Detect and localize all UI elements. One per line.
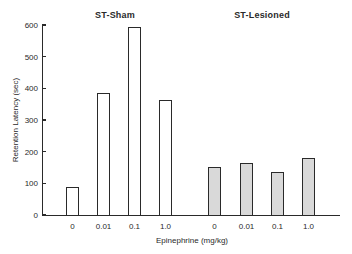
- y-tick-label: 300: [8, 116, 38, 125]
- y-tick-label: 600: [8, 21, 38, 30]
- bar-lesioned-0: [208, 167, 221, 215]
- y-tick: [42, 214, 46, 215]
- y-tick-label: 400: [8, 84, 38, 93]
- y-tick: [42, 119, 46, 120]
- y-tick: [42, 56, 46, 57]
- x-tick-label: 1.0: [303, 222, 314, 231]
- bar-sham-0.1: [128, 27, 141, 215]
- x-tick-label: 0.1: [129, 222, 140, 231]
- bar-lesioned-0.1: [271, 172, 284, 215]
- bar-chart: ST-Sham ST-Lesioned Retention Latency (s…: [0, 0, 352, 254]
- bar-sham-0: [66, 187, 79, 215]
- panel-title-lesioned: ST-Lesioned: [234, 10, 290, 20]
- x-tick-label: 0.1: [272, 222, 283, 231]
- y-tick: [42, 151, 46, 152]
- bar-sham-0.01: [97, 93, 110, 215]
- y-tick-label: 200: [8, 147, 38, 156]
- x-tick-label: 0: [70, 222, 74, 231]
- y-tick-label: 100: [8, 179, 38, 188]
- x-tick-label: 0.01: [239, 222, 255, 231]
- x-tick-label: 0.01: [96, 222, 112, 231]
- x-tick-label: 0: [212, 222, 216, 231]
- x-axis-line: [42, 215, 340, 216]
- bar-sham-1.0: [159, 100, 172, 215]
- x-axis-title: Epinephrine (mg/kg): [156, 236, 228, 245]
- y-tick: [42, 88, 46, 89]
- panel-title-sham: ST-Sham: [95, 10, 135, 20]
- y-tick-label: 500: [8, 52, 38, 61]
- x-tick-label: 1.0: [160, 222, 171, 231]
- bar-lesioned-1.0: [302, 158, 315, 215]
- y-tick-label: 0: [8, 211, 38, 220]
- y-tick: [42, 24, 46, 25]
- bar-lesioned-0.01: [240, 163, 253, 215]
- y-tick: [42, 183, 46, 184]
